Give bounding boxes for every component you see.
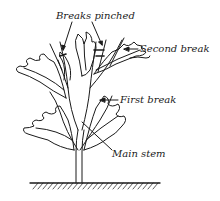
ground-hatching (30, 183, 160, 189)
plant-diagram: Breaks pinched Second break First break … (0, 0, 220, 201)
label-second-break: Second break (140, 44, 210, 54)
label-first-break: First break (120, 95, 176, 105)
plant-illustration (0, 0, 220, 201)
label-breaks-pinched: Breaks pinched (56, 11, 135, 21)
pointer-lines (62, 22, 139, 150)
main-stem (76, 130, 84, 183)
label-main-stem: Main stem (112, 149, 166, 159)
